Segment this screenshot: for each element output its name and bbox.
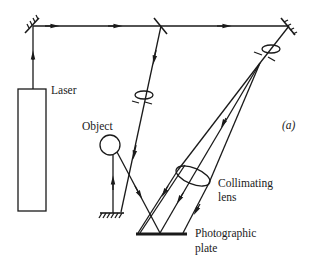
collimated-arrow-2 xyxy=(179,193,183,200)
object-scattered-arrow xyxy=(135,186,140,195)
holography-setup-diagram xyxy=(0,0,311,265)
object-label: Object xyxy=(82,120,113,133)
photographic-plate-label-line2: plate xyxy=(195,242,217,255)
reference-beam-down xyxy=(260,26,289,63)
object-beam-lens-icon xyxy=(132,91,153,104)
laser-box xyxy=(18,89,46,211)
collimated-ray-right xyxy=(183,183,209,233)
bottom-mirror-icon xyxy=(99,213,124,218)
collimating-lens-label-line1: Collimating xyxy=(218,177,273,190)
top-left-mirror-icon xyxy=(25,15,39,33)
laser-label: Laser xyxy=(51,84,77,97)
reference-beam-lens-icon xyxy=(254,45,280,61)
collimating-lens-label-line2: lens xyxy=(218,191,237,204)
photographic-plate-label-line1: Photographic xyxy=(195,227,256,240)
cone-ray-right xyxy=(209,63,260,183)
panel-label: (a) xyxy=(282,119,295,132)
cone-ray-middle xyxy=(193,63,260,176)
cone-ray-left xyxy=(178,63,260,170)
